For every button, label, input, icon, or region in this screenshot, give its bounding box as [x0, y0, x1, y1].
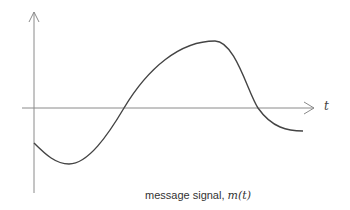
x-axis-label: t: [324, 99, 329, 113]
signal-diagram: [0, 0, 350, 210]
message-signal-curve: [34, 41, 303, 164]
caption-text: message signal,: [145, 189, 228, 201]
diagram-caption: message signal, m(t): [145, 189, 251, 202]
caption-math: m(t): [228, 189, 251, 202]
